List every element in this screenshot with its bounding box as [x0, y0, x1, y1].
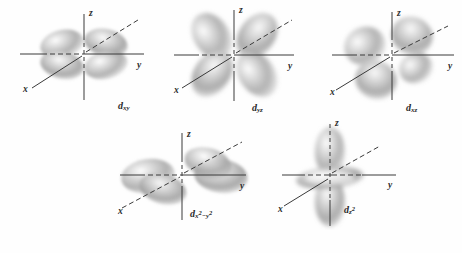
- axis-label-x-dxy: x: [23, 84, 28, 94]
- axis-label-x-dz2: x: [278, 204, 283, 214]
- orbital-label-dz2: dz2: [344, 204, 355, 216]
- axis-label-z-dxy: z: [89, 8, 93, 18]
- orbital-dxy: z y x: [18, 8, 148, 103]
- axis-label-y-dx2y2: y: [240, 181, 244, 191]
- d-orbital-figure: z y x dxy z y x dyz: [0, 0, 462, 253]
- orbital-dyz: z y x: [172, 6, 297, 104]
- orbital-label-dxy: dxy: [118, 100, 130, 112]
- axis-label-z-dyz: z: [239, 5, 243, 15]
- axis-label-y-dxz: y: [448, 61, 452, 71]
- axis-label-z-dz2: z: [335, 118, 339, 128]
- axis-label-y-dz2: y: [388, 180, 392, 190]
- axis-label-x-dxz: x: [330, 87, 335, 97]
- axis-label-y-dxy: y: [137, 60, 141, 70]
- axis-label-y-dyz: y: [288, 61, 292, 71]
- axis-label-x-dyz: x: [174, 85, 179, 95]
- orbital-dxz: z y x: [330, 8, 458, 103]
- orbital-dx2y2: z y x: [118, 128, 250, 224]
- orbital-label-dxz: dxz: [406, 102, 417, 114]
- axis-label-z-dxz: z: [397, 8, 401, 18]
- orbital-dz2: z y x: [282, 122, 402, 230]
- orbital-label-dx2y2: dx2−y2: [190, 208, 212, 220]
- orbital-label-dyz: dyz: [252, 102, 263, 114]
- axis-label-x-dx2y2: x: [118, 206, 123, 216]
- axis-label-z-dx2y2: z: [187, 129, 191, 139]
